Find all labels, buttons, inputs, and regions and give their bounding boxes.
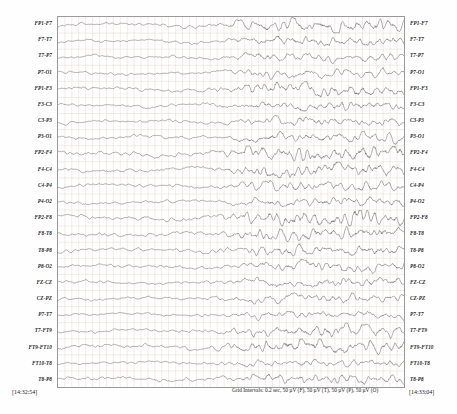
channel-label-ft10-t8-left: FT10-T8 [32,361,52,366]
channel-label-cz-pz-right: CZ-PZ [410,296,425,301]
eeg-traces [58,17,404,387]
channel-label-fp2-f4-right: FP2-F4 [410,150,428,155]
channel-label-p4-o2-right: P4-O2 [410,199,424,204]
channel-label-f4-c4-left: F4-C4 [38,167,52,172]
channel-label-ft9-ft10-right: FT9-FT10 [410,345,434,350]
channel-label-p3-o1-right: P3-O1 [410,134,424,139]
channel-label-p3-o1-left: P3-O1 [38,134,52,139]
timestamp-end: [14:33:04] [409,389,434,395]
channel-label-t8-p8-left: T8-P8 [38,248,52,253]
channel-label-c4-p4-left: C4-P4 [38,183,52,188]
channel-label-t7-p7-right: T7-P7 [410,53,424,58]
channel-label-f8-t8-left: F8-T8 [38,231,52,236]
channel-label-fp1-f7-left: FP1-F7 [34,21,52,26]
channel-label-f3-c3-right: F3-C3 [410,102,424,107]
channel-label-cz-pz-left: CZ-PZ [37,296,52,301]
channel-label-f8-t8-right: F8-T8 [410,231,424,236]
channel-label-p7-o1-left: P7-O1 [38,70,52,75]
channel-label-fp1-f3-left: FP1-F3 [34,86,52,91]
channel-label-f4-c4-right: F4-C4 [410,167,424,172]
channel-label-t8-p8-right: T8-P8 [410,377,424,382]
channel-label-ft9-ft10-left: FT9-FT10 [28,345,52,350]
eeg-recording-page: FP1-F7F7-T7T7-P7P7-O1FP1-F3F3-C3C3-P3P3-… [0,0,457,414]
channel-label-p7-o1-right: P7-O1 [410,70,424,75]
channel-label-fp1-f7-right: FP1-F7 [410,21,428,26]
channel-label-t8-p8-right: T8-P8 [410,248,424,253]
eeg-plot-area[interactable] [57,16,405,388]
channel-label-t7-ft9-left: T7-FT9 [35,328,52,333]
channel-label-f7-t7-left: F7-T7 [38,37,52,42]
channel-label-c4-p4-right: C4-P4 [410,183,424,188]
channel-label-ft10-t8-right: FT10-T8 [410,361,430,366]
channel-label-f7-t7-right: F7-T7 [410,37,424,42]
timestamp-start: [14:32:54] [12,389,37,395]
channel-label-t7-p7-left: T7-P7 [38,53,52,58]
channel-label-p7-t7-left: P7-T7 [38,312,52,317]
channel-label-f3-c3-left: F3-C3 [38,102,52,107]
channel-label-fp2-f8-right: FP2-F8 [410,215,428,220]
channel-label-fp2-f8-left: FP2-F8 [34,215,52,220]
channel-label-p8-o2-left: P8-O2 [38,264,52,269]
channel-label-fp1-f3-right: FP1-F3 [410,86,428,91]
channel-label-c3-p3-left: C3-P3 [38,118,52,123]
grid-interval-caption: Grid Intervals: 0.2 sec, 50 µV (F), 50 µ… [232,388,378,393]
channel-label-fp2-f4-left: FP2-F4 [34,150,52,155]
channel-label-p4-o2-left: P4-O2 [38,199,52,204]
channel-label-p8-o2-right: P8-O2 [410,264,424,269]
channel-label-t8-p8-left: T8-P8 [38,377,52,382]
channel-label-fz-cz-right: FZ-CZ [410,280,426,285]
channel-label-fz-cz-left: FZ-CZ [37,280,53,285]
channel-label-c3-p3-right: C3-P3 [410,118,424,123]
channel-label-p7-t7-right: P7-T7 [410,312,424,317]
channel-label-t7-ft9-right: T7-FT9 [410,328,427,333]
